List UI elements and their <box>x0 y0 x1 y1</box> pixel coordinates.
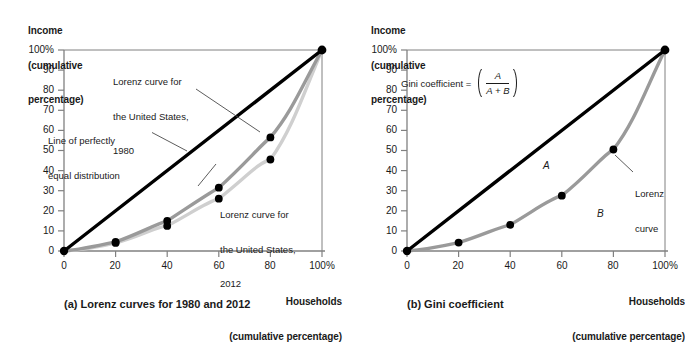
panel-b-xtick-80: 80 <box>603 260 623 271</box>
leader-line-2012 <box>198 164 216 186</box>
panel-a-ytick-30: 30 <box>0 185 54 196</box>
panel-a-xtick-40: 40 <box>157 260 177 271</box>
right-paren-icon <box>512 68 520 98</box>
panel-a-ytick-10: 10 <box>0 225 54 236</box>
annotation-line-1: Lorenz curve for <box>113 76 189 88</box>
origin-point <box>60 247 68 255</box>
panel-b-x-axis-title: Households (cumulative percentage) <box>523 273 685 346</box>
panel-a-ytick-80: 80 <box>0 84 54 95</box>
data-point <box>506 221 514 229</box>
panel-b-ytick-30: 30 <box>343 185 397 196</box>
origin-point <box>403 247 411 255</box>
annotation-line-2: equal distribution <box>48 170 120 182</box>
x-axis-title-line-2: (cumulative percentage) <box>523 331 685 343</box>
panel-a-ytick-70: 70 <box>0 104 54 115</box>
region-label-b: B <box>597 208 604 219</box>
x-axis-title-line-2: (cumulative percentage) <box>180 331 342 343</box>
annotation-line-2: curve <box>635 223 664 235</box>
annotation-lorenz-curve: Lorenz curve <box>635 165 664 257</box>
formula-numerator: A <box>486 70 509 82</box>
annotation-line-2: the United States, <box>113 111 189 123</box>
panel-a-ytick-0: 0 <box>0 245 54 256</box>
panel-a-xtick-0: 0 <box>54 260 74 271</box>
panel-b-ytick-60: 60 <box>343 124 397 135</box>
panel-a-ytick-40: 40 <box>0 165 54 176</box>
panel-a-ytick-90: 90 <box>0 64 54 75</box>
annotation-lorenz-2012: Lorenz curve for the United States, 2012 <box>220 186 296 313</box>
endpoint-point <box>318 46 327 55</box>
y-axis-title-line-1: Income <box>28 25 84 37</box>
panel-a-ytick-100: 100% <box>0 44 54 55</box>
annotation-line-3: 2012 <box>220 278 296 290</box>
panel-b-ytick-40: 40 <box>343 165 397 176</box>
panel-b-ytick-80: 80 <box>343 84 397 95</box>
annotation-line-1: Lorenz curve for <box>220 209 296 221</box>
panel-b-xtick-40: 40 <box>500 260 520 271</box>
data-point <box>267 156 275 164</box>
panel-b-ytick-90: 90 <box>343 64 397 75</box>
annotation-lorenz-1980: Lorenz curve for the United States, 1980 <box>113 53 189 180</box>
panel-lorenz-curves: Income (cumulative percentage) <box>0 0 342 321</box>
y-axis-title-line-1: Income <box>371 25 427 37</box>
panel-a-xtick-20: 20 <box>105 260 125 271</box>
formula-label: Gini coefficient = <box>401 78 471 89</box>
left-paren-icon <box>475 68 483 98</box>
data-point <box>112 238 120 246</box>
annotation-equality-line: Line of perfectly equal distribution <box>48 112 120 204</box>
region-label-a: A <box>543 160 550 171</box>
panel-b-caption: (b) Gini coefficient <box>407 298 504 310</box>
panel-b-xtick-0: 0 <box>397 260 417 271</box>
panel-b-ytick-50: 50 <box>343 144 397 155</box>
panel-b-ytick-70: 70 <box>343 104 397 115</box>
panel-b-xtick-20: 20 <box>448 260 468 271</box>
data-point <box>163 217 171 225</box>
panel-gini-coefficient: Income (cumulative percentage) <box>343 0 685 321</box>
panel-a-ytick-50: 50 <box>0 144 54 155</box>
panel-b-xtick-100: 100% <box>650 260 680 271</box>
formula-denominator: A + B <box>486 83 509 97</box>
gini-coefficient-formula: Gini coefficient = A A + B <box>401 68 520 98</box>
panel-a-xtick-100: 100% <box>307 260 337 271</box>
panel-a-ytick-20: 20 <box>0 205 54 216</box>
panel-a-ytick-60: 60 <box>0 124 54 135</box>
data-point <box>558 192 566 200</box>
leader-line-1980 <box>196 89 260 132</box>
panel-b-xtick-60: 60 <box>552 260 572 271</box>
annotation-line-1: Lorenz <box>635 188 664 200</box>
data-point <box>610 146 618 154</box>
x-axis-title-line-1: Households <box>523 296 685 308</box>
formula-fraction: A A + B <box>483 70 512 97</box>
data-point <box>455 239 463 247</box>
panel-b-ytick-0: 0 <box>343 245 397 256</box>
panel-b-ytick-100: 100% <box>343 44 397 55</box>
data-point <box>267 134 275 142</box>
leader-line-lorenz <box>615 155 633 172</box>
annotation-line-1: Line of perfectly <box>48 135 120 147</box>
annotation-line-2: the United States, <box>220 244 296 256</box>
panel-b-ytick-10: 10 <box>343 225 397 236</box>
endpoint-point <box>661 46 670 55</box>
formula-fraction-group: A A + B <box>475 68 520 98</box>
annotation-line-3: 1980 <box>113 145 189 157</box>
panel-a-caption: (a) Lorenz curves for 1980 and 2012 <box>64 298 250 310</box>
panel-b-x-ticks <box>407 251 665 257</box>
panel-b-ytick-20: 20 <box>343 205 397 216</box>
